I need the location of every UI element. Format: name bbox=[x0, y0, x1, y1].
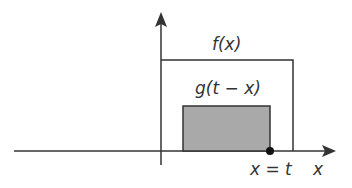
g-function-shaded-region bbox=[183, 106, 270, 151]
point-x-equals-t bbox=[266, 147, 274, 155]
f-label: f(x) bbox=[212, 34, 241, 54]
g-label: g(t − x) bbox=[195, 78, 261, 98]
x-axis-label: x bbox=[312, 159, 324, 179]
convolution-diagram: f(x) g(t − x) x = t x bbox=[0, 0, 352, 188]
x-equals-t-label: x = t bbox=[249, 159, 293, 179]
